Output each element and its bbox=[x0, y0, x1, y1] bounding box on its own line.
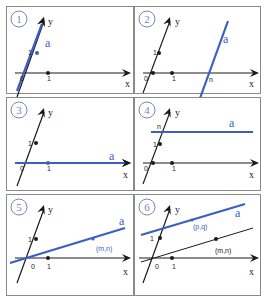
tick-dot bbox=[35, 51, 39, 55]
number-badge: 1 bbox=[16, 13, 22, 25]
point-label: (m,n) bbox=[215, 247, 231, 255]
tick-label: 0 bbox=[144, 165, 148, 172]
panel-3: 3xya011 bbox=[6, 97, 134, 191]
tick-label: 1 bbox=[172, 75, 176, 82]
tick-label: 1 bbox=[28, 140, 32, 147]
y-axis-arrow-icon bbox=[37, 108, 45, 118]
tick-dot bbox=[151, 71, 155, 75]
point-label: (p,q) bbox=[193, 223, 207, 231]
x-axis-label: x bbox=[249, 78, 254, 89]
y-axis-arrow-icon bbox=[163, 108, 171, 118]
x-axis-label: x bbox=[125, 78, 130, 89]
n-intercept-label: n bbox=[209, 76, 213, 83]
number-badge: 2 bbox=[144, 13, 150, 25]
panel-graph: 1xya011 bbox=[7, 7, 135, 95]
tick-dot bbox=[151, 161, 155, 165]
tick-label: 1 bbox=[153, 49, 157, 56]
point-dot bbox=[191, 219, 194, 222]
x-axis-label: x bbox=[249, 266, 254, 277]
tick-label: 1 bbox=[47, 75, 51, 82]
point-dot bbox=[214, 237, 218, 241]
line-a-label: a bbox=[45, 36, 51, 50]
y-axis-arrow-icon bbox=[37, 205, 45, 215]
y-axis-arrow-icon bbox=[163, 205, 171, 215]
number-badge: 3 bbox=[16, 104, 22, 116]
panel-6: 6xya011(p,q)(m,n) bbox=[134, 194, 261, 296]
x-axis-label: x bbox=[123, 169, 128, 180]
tick-label: 0 bbox=[20, 75, 24, 82]
point-dot bbox=[92, 238, 95, 241]
tick-dot bbox=[170, 256, 174, 260]
tick-label: 1 bbox=[153, 141, 157, 148]
tick-label: 1 bbox=[47, 263, 51, 270]
number-badge: 6 bbox=[144, 201, 150, 213]
y-axis-arrow-icon bbox=[163, 17, 171, 27]
tick-dot bbox=[34, 141, 38, 145]
line-a-label: a bbox=[119, 214, 125, 228]
y-axis-label: y bbox=[175, 16, 180, 27]
line-a-label: a bbox=[109, 149, 115, 163]
y-axis-label: y bbox=[175, 107, 180, 118]
tick-label: 0 bbox=[31, 263, 35, 270]
line-a-label: a bbox=[223, 32, 229, 46]
line-a-label: a bbox=[229, 116, 235, 130]
tick-label: 1 bbox=[172, 165, 176, 172]
y-axis-label: y bbox=[175, 204, 180, 215]
panel-graph: 6xya011(p,q)(m,n) bbox=[135, 195, 262, 297]
tick-label: 1 bbox=[172, 263, 176, 270]
n-intercept-label: n bbox=[157, 123, 161, 130]
tick-label: 0 bbox=[144, 75, 148, 82]
x-axis-label: x bbox=[249, 169, 254, 180]
tick-dot bbox=[46, 256, 50, 260]
line-a-label: a bbox=[235, 206, 241, 220]
y-axis-label: y bbox=[48, 107, 53, 118]
y-axis-label: y bbox=[48, 204, 53, 215]
panel-1: 1xya011 bbox=[6, 6, 134, 94]
y-axis-label: y bbox=[48, 16, 53, 27]
panel-graph: 3xya011 bbox=[7, 98, 135, 192]
tick-label: 1 bbox=[28, 49, 32, 56]
tick-dot bbox=[158, 236, 162, 240]
tick-label: 1 bbox=[150, 235, 154, 242]
tick-dot bbox=[34, 237, 38, 241]
tick-label: 0 bbox=[155, 263, 159, 270]
panel-graph: 4xya011n bbox=[135, 98, 262, 192]
tick-dot bbox=[157, 51, 161, 55]
y-axis bbox=[17, 209, 44, 283]
y-axis bbox=[143, 21, 170, 93]
point-label: (m,n) bbox=[96, 245, 112, 253]
number-badge: 5 bbox=[16, 201, 22, 213]
tick-label: 1 bbox=[28, 236, 32, 243]
tick-label: 1 bbox=[47, 165, 51, 172]
panel-4: 4xya011n bbox=[134, 97, 261, 191]
x-axis-label: x bbox=[123, 266, 128, 277]
y-axis bbox=[17, 21, 44, 97]
number-badge: 4 bbox=[144, 104, 150, 116]
panel-2: 2xya011n bbox=[134, 6, 261, 94]
reference-line bbox=[141, 228, 253, 262]
y-axis bbox=[143, 209, 170, 283]
panel-graph: 2xya011n bbox=[135, 7, 262, 95]
tick-dot bbox=[158, 142, 162, 146]
tick-label: 0 bbox=[20, 165, 24, 172]
panel-5: 5xya011(m,n) bbox=[6, 194, 134, 296]
y-axis bbox=[17, 112, 44, 186]
panel-graph: 5xya011(m,n) bbox=[7, 195, 135, 297]
